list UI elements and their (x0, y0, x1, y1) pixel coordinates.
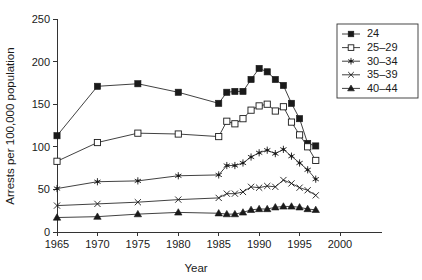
data-point (53, 214, 60, 220)
x-tick-label: 1990 (247, 238, 271, 250)
marker-asterisk-core (350, 60, 352, 62)
marker-open-square (224, 118, 230, 124)
data-point (215, 210, 222, 216)
marker-open-square (135, 130, 141, 136)
marker-filled-triangle (255, 205, 262, 211)
data-point (264, 147, 270, 154)
data-point (240, 159, 246, 166)
data-point (296, 185, 302, 191)
data-point (348, 31, 354, 37)
marker-filled-square (280, 82, 286, 88)
data-point (272, 150, 278, 157)
data-point (288, 153, 294, 160)
data-point (272, 108, 278, 114)
marker-open-square (175, 131, 181, 137)
marker-filled-square (240, 88, 246, 94)
legend-item-label: 24 (367, 27, 379, 39)
marker-filled-square (224, 89, 230, 95)
series-30-34 (54, 146, 319, 192)
marker-open-square (94, 139, 100, 145)
marker-open-square (348, 45, 354, 51)
marker-filled-square (248, 76, 254, 82)
marker-open-square (288, 119, 294, 125)
data-point (240, 189, 246, 195)
marker-open-square (272, 108, 278, 114)
data-point (54, 133, 60, 139)
x-tick-label: 1995 (287, 238, 311, 250)
data-point (175, 131, 181, 137)
marker-asterisk-core (234, 164, 236, 166)
data-point (216, 133, 222, 139)
data-point (296, 159, 302, 166)
data-point (256, 103, 262, 109)
y-tick-label: 50 (38, 183, 50, 195)
data-point (305, 187, 311, 193)
data-point (248, 107, 254, 113)
marker-filled-square (232, 88, 238, 94)
data-point (240, 88, 246, 94)
data-point (256, 149, 262, 156)
marker-asterisk-core (96, 181, 98, 183)
marker-filled-triangle (215, 210, 222, 216)
marker-open-square (264, 101, 270, 107)
x-tick-label: 2000 (328, 238, 352, 250)
chart-legend: 2425–2930–3435–3940–44 (337, 24, 418, 98)
marker-filled-square (264, 69, 270, 75)
data-point (216, 100, 222, 106)
marker-asterisk-core (177, 175, 179, 177)
marker-asterisk-core (226, 164, 228, 166)
data-point (280, 203, 287, 209)
data-point (175, 89, 181, 95)
data-point (224, 89, 230, 95)
data-point (280, 146, 286, 153)
series-24 (54, 65, 319, 149)
marker-open-square (248, 107, 254, 113)
marker-open-square (313, 157, 319, 163)
marker-filled-square (348, 31, 354, 37)
data-point (264, 69, 270, 75)
marker-asterisk-core (299, 162, 301, 164)
line-chart: 050100150200250 196519701975198019851990… (0, 0, 422, 280)
marker-filled-square (272, 76, 278, 82)
marker-asterisk-core (307, 169, 309, 171)
series-35-39 (54, 177, 319, 209)
x-axis-title: Year (184, 262, 207, 274)
y-axis: 050100150200250 (32, 13, 57, 238)
data-point (255, 205, 262, 211)
data-point (272, 76, 278, 82)
y-tick-label: 250 (32, 13, 50, 25)
data-point (288, 100, 294, 106)
series-40-44 (53, 203, 319, 220)
y-tick-label: 200 (32, 56, 50, 68)
x-tick-label: 1970 (85, 238, 109, 250)
data-point (232, 121, 238, 127)
marker-open-square (54, 158, 60, 164)
marker-filled-triangle (288, 203, 295, 209)
marker-asterisk-core (315, 178, 317, 180)
marker-filled-square (256, 65, 262, 71)
data-point (348, 45, 354, 51)
marker-asterisk-core (242, 162, 244, 164)
marker-asterisk-core (137, 180, 139, 182)
y-axis-title: Arrests per 100,000 population (4, 47, 16, 204)
data-point (288, 203, 295, 209)
x-tick-label: 1965 (45, 238, 69, 250)
marker-asterisk-core (290, 155, 292, 157)
marker-filled-square (313, 143, 319, 149)
y-tick-label: 0 (44, 226, 50, 238)
marker-filled-square (288, 100, 294, 106)
data-point (313, 143, 319, 149)
marker-asterisk-core (282, 148, 284, 150)
marker-filled-triangle (280, 203, 287, 209)
marker-filled-square (94, 83, 100, 89)
marker-open-square (232, 121, 238, 127)
data-point (135, 81, 141, 87)
data-point (248, 76, 254, 82)
data-point (264, 101, 270, 107)
marker-filled-triangle (175, 209, 182, 215)
data-point (280, 104, 286, 110)
series-layer (53, 65, 319, 220)
x-tick-label: 1980 (166, 238, 190, 250)
chart-figure: 050100150200250 196519701975198019851990… (0, 0, 422, 280)
legend-item-label: 40–44 (367, 82, 398, 94)
